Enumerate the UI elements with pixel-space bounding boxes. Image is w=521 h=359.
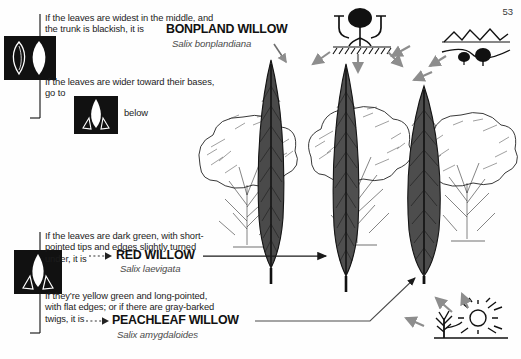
species-name-bonpland-willow[interactable]: BONPLAND WILLOW: [166, 22, 288, 36]
couplet-red-willow-line-1: If the leaves are dark green, with short…: [45, 230, 277, 241]
couplet-go-to-line-1: If the leaves are wider toward their bas…: [45, 76, 280, 87]
dotted-leader-red-willow: [88, 250, 116, 262]
couplet-peachleaf-line-2: with flat edges; or if there are gray-ba…: [45, 301, 291, 312]
dotted-leader-peachleaf-willow: [85, 315, 113, 327]
narrow-leaf-icon-a: [74, 96, 118, 134]
species-name-peachleaf-willow[interactable]: PEACHLEAF WILLOW: [112, 313, 239, 327]
scientific-name-peachleaf-willow: Salix amygdaloides: [117, 329, 198, 340]
couplet-go-to: If the leaves are wider toward their bas…: [45, 76, 280, 99]
couplet-go-to-trailing-text: below: [124, 107, 148, 118]
two-leaf-shapes-icon: [4, 36, 56, 80]
couplet-peachleaf-line-1: If they’re yellow green and long-pointed…: [45, 290, 291, 301]
couplet-go-to-line-2: go to: [45, 87, 280, 98]
field-guide-page: 53: [0, 0, 521, 359]
species-name-red-willow[interactable]: RED WILLOW: [116, 248, 195, 262]
scientific-name-bonpland-willow: Salix bonplandiana: [172, 38, 251, 49]
scientific-name-red-willow: Salix laevigata: [120, 263, 180, 274]
